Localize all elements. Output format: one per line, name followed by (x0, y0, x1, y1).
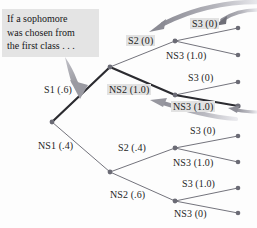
branch-line-s3a (175, 28, 238, 41)
branch-line-s3c (175, 136, 238, 148)
branch-label-s3c: S3 (0) (190, 125, 215, 136)
node-leaf-ns3d (236, 211, 241, 216)
node-s2a (173, 39, 178, 44)
callout-line-1: If a sophomore (7, 12, 95, 26)
sophomore-callout-box: If a sophomore was chosen from the first… (2, 9, 99, 57)
node-ns2b (173, 199, 178, 204)
node-leaf-s3c (236, 134, 241, 139)
branch-label-s2a: S2 (0) (126, 35, 155, 46)
s3-right-arrow (214, 10, 257, 26)
node-leaf-ns3c (236, 160, 241, 165)
branch-label-ns3d: NS3 (0) (174, 208, 207, 219)
node-s1 (108, 65, 113, 70)
branch-label-ns3c: NS3 (1.0) (173, 157, 213, 168)
branch-label-ns2a: NS2 (1.0) (107, 84, 151, 95)
branch-line-s3b (175, 82, 238, 95)
branch-label-s3d: S3 (1.0) (182, 178, 215, 189)
node-leaf-ns3a (236, 53, 241, 58)
branch-label-s1: S1 (.6) (44, 84, 72, 95)
node-root (50, 120, 55, 125)
node-ns2a (173, 93, 178, 98)
branch-label-ns3a: NS3 (1.0) (166, 50, 206, 61)
branch-label-ns1: NS1 (.4) (38, 140, 73, 151)
branch-label-ns2b: NS2 (.6) (110, 189, 145, 200)
tree-diagram-figure: If a sophomore was chosen from the first… (0, 0, 257, 228)
node-leaf-s3b (236, 80, 241, 85)
branch-line-s3d (175, 188, 238, 201)
callout-line-2: was chosen from (7, 26, 95, 40)
node-leaf-s3d (236, 186, 241, 191)
callout-line-3: the first class . . . (7, 39, 95, 53)
ns3-right-arrow (228, 106, 257, 113)
branch-label-ns3b: NS3 (1.0) (171, 101, 215, 112)
node-leaf-s3a (236, 26, 241, 31)
node-ns1 (108, 170, 113, 175)
branch-label-s3b: S3 (0) (188, 72, 213, 83)
branch-label-s2b: S2 (.4) (118, 142, 146, 153)
branch-label-s3a: S3 (0) (190, 18, 219, 29)
node-s2b (173, 146, 178, 151)
